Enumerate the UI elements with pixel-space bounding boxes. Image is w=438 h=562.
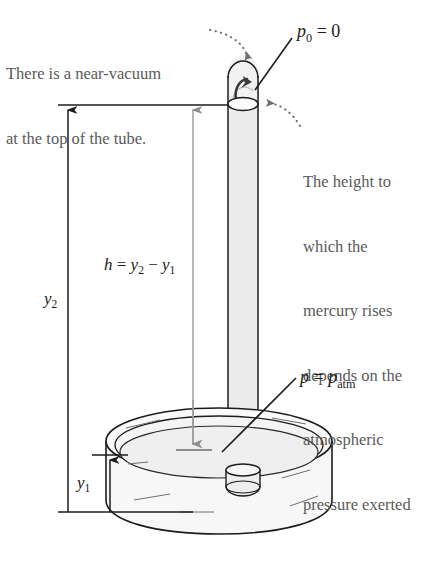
label-p-atm-value-symbol: p <box>328 367 337 387</box>
label-p0: p0 = 0 <box>297 21 340 46</box>
callout-vacuum: There is a near-vacuum at the top of the… <box>6 20 161 171</box>
label-p0-symbol: p <box>297 21 306 41</box>
dish-mercury-surface <box>120 426 318 478</box>
label-h-symbol: h <box>104 255 113 274</box>
mercury-column-fill <box>229 104 257 452</box>
label-h-equation: h = y2 − y1 <box>104 255 175 277</box>
leader-height-dotted <box>268 103 300 126</box>
label-y2-symbol: y <box>44 289 52 308</box>
label-h-term1-subscript: 2 <box>138 264 144 277</box>
leader-p0 <box>255 38 292 90</box>
label-p-atm-relation: = <box>314 367 324 387</box>
label-p-atm-value-subscript: atm <box>337 377 355 391</box>
label-h-relation: = <box>117 255 127 274</box>
label-y1: y1 <box>77 473 90 495</box>
tube-foot-collar <box>226 464 260 476</box>
label-y2-subscript: 2 <box>52 298 58 311</box>
mercury-meniscus <box>228 98 258 111</box>
callout-height-line5: atmospheric <box>303 429 411 451</box>
label-p-atm-symbol: p <box>300 367 309 387</box>
label-h-operator: − <box>148 255 158 274</box>
callout-height-line3: mercury rises <box>303 300 411 322</box>
label-p0-subscript: 0 <box>306 31 312 45</box>
label-y2: y2 <box>44 289 57 311</box>
label-h-term1-symbol: y <box>131 255 139 274</box>
label-p0-value: 0 <box>331 21 340 41</box>
label-y1-subscript: 1 <box>85 482 91 495</box>
callout-vacuum-line2: at the top of the tube. <box>6 128 161 150</box>
label-h-term2-symbol: y <box>162 255 170 274</box>
callout-height-line2: which the <box>303 236 411 258</box>
label-p-atm: p = patm <box>300 367 356 392</box>
label-p0-relation: = <box>317 21 327 41</box>
label-y1-symbol: y <box>77 473 85 492</box>
callout-height: The height to which the mercury rises de… <box>303 128 411 562</box>
callout-vacuum-line1: There is a near-vacuum <box>6 63 161 85</box>
callout-height-line6: pressure exerted <box>303 494 411 516</box>
callout-height-line7: on the mercury <box>303 558 411 562</box>
callout-height-line1: The height to <box>303 171 411 193</box>
leader-vacuum-dotted <box>210 30 248 58</box>
label-h-term2-subscript: 1 <box>170 264 176 277</box>
